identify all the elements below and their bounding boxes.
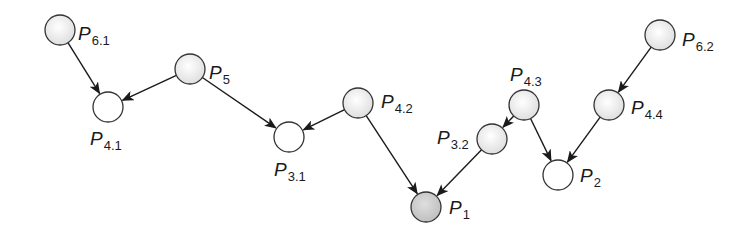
node-label-p6-2: P6.2 <box>682 29 714 54</box>
edge-P4-4-to-P2 <box>567 117 600 162</box>
node-p4-1: P4.1 <box>90 92 123 153</box>
node-circle-p5 <box>175 54 205 84</box>
node-label-p2: P2 <box>580 165 601 190</box>
node-circle-p4-1 <box>93 92 123 122</box>
edge-P5-to-P3-1 <box>202 77 275 127</box>
node-p6-2: P6.2 <box>645 20 714 54</box>
node-circle-p4-3 <box>509 90 539 120</box>
node-circle-p6-1 <box>45 15 75 45</box>
node-p4-2: P4.2 <box>343 88 413 118</box>
node-circle-p4-2 <box>343 88 373 118</box>
edge-P4-3-to-P3-2 <box>503 116 514 127</box>
node-label-p4-1: P4.1 <box>90 128 122 153</box>
edge-P6-1-to-P4-1 <box>68 43 100 94</box>
edge-P4-2-to-P3-1 <box>303 110 344 130</box>
node-p1: P1 <box>411 192 470 222</box>
edge-P6-2-to-P4-4 <box>618 47 651 92</box>
node-p4-3: P4.3 <box>509 64 542 120</box>
node-label-p4-3: P4.3 <box>510 64 542 89</box>
graph-diagram: P6.1P4.1P5P3.1P4.2P1P3.2P4.3P2P4.4P6.2 <box>0 0 756 235</box>
node-circle-p3-2 <box>477 124 507 154</box>
nodes-layer: P6.1P4.1P5P3.1P4.2P1P3.2P4.3P2P4.4P6.2 <box>45 15 714 222</box>
edge-P3-2-to-P1 <box>437 150 481 196</box>
node-p2: P2 <box>543 160 601 190</box>
node-p3-1: P3.1 <box>274 122 306 184</box>
node-p5: P5 <box>175 54 230 87</box>
edge-P4-3-to-P2 <box>531 118 551 160</box>
node-p3-2: P3.2 <box>437 124 507 154</box>
node-circle-p3-1 <box>274 122 304 152</box>
graph-canvas: P6.1P4.1P5P3.1P4.2P1P3.2P4.3P2P4.4P6.2 <box>0 0 756 235</box>
node-label-p5: P5 <box>209 62 230 87</box>
node-circle-p1 <box>411 192 441 222</box>
node-label-p6-1: P6.1 <box>78 23 110 48</box>
node-circle-p2 <box>543 160 573 190</box>
node-p6-1: P6.1 <box>45 15 110 48</box>
edge-P4-2-to-P1 <box>366 116 417 194</box>
node-label-p4-2: P4.2 <box>381 91 413 116</box>
node-label-p3-2: P3.2 <box>437 127 469 152</box>
node-label-p3-1: P3.1 <box>274 159 306 184</box>
node-p4-4: P4.4 <box>594 90 663 122</box>
node-circle-p4-4 <box>594 90 624 120</box>
edge-P5-to-P4-1 <box>123 75 177 100</box>
node-label-p1: P1 <box>449 197 470 222</box>
node-circle-p6-2 <box>645 20 675 50</box>
node-label-p4-4: P4.4 <box>631 97 663 122</box>
